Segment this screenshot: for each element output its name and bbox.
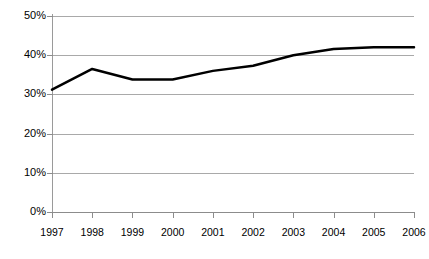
x-axis-tick [132, 213, 133, 218]
x-axis-tick [173, 213, 174, 218]
x-axis-line [52, 212, 415, 213]
y-axis-tick [47, 134, 53, 135]
x-axis-tick-label: 2002 [241, 226, 264, 238]
gridline [52, 134, 414, 135]
x-axis-tick-label: 2000 [161, 226, 184, 238]
x-axis-tick-label: 2006 [402, 226, 425, 238]
y-axis-tick [47, 55, 53, 56]
y-axis-tick [47, 173, 53, 174]
y-axis-tick-label: 10% [2, 167, 46, 178]
line-chart: 50%40%30%20%10%0% 1997199819992000200120… [0, 0, 429, 259]
y-axis-tick-label: 50% [2, 10, 46, 21]
y-axis-tick-label: 20% [2, 128, 46, 139]
x-axis-tick [52, 213, 53, 218]
x-axis-tick-label: 2004 [322, 226, 345, 238]
x-axis-tick [334, 213, 335, 218]
y-axis-line [52, 14, 53, 214]
gridline [52, 173, 414, 174]
x-axis-tick-label: 1997 [40, 226, 63, 238]
x-axis-tick-label: 1999 [121, 226, 144, 238]
gridline [52, 94, 414, 95]
x-axis-tick-label: 2005 [362, 226, 385, 238]
y-axis-tick-label: 40% [2, 49, 46, 60]
y-axis-tick-label: 30% [2, 88, 46, 99]
x-axis-tick [92, 213, 93, 218]
x-axis-tick [374, 213, 375, 218]
gridline [52, 55, 414, 56]
gridline [52, 16, 414, 17]
x-axis-tick-label: 2001 [201, 226, 224, 238]
y-axis-labels: 50%40%30%20%10%0% [0, 0, 46, 259]
y-axis-tick [47, 94, 53, 95]
x-axis-tick [253, 213, 254, 218]
plot-area [52, 16, 414, 212]
x-axis-tick-label: 1998 [81, 226, 104, 238]
x-axis-tick [213, 213, 214, 218]
x-axis-tick [414, 213, 415, 218]
y-axis-tick [47, 16, 53, 17]
x-axis-tick-label: 2003 [282, 226, 305, 238]
y-axis-tick-label: 0% [2, 206, 46, 217]
x-axis-tick [293, 213, 294, 218]
